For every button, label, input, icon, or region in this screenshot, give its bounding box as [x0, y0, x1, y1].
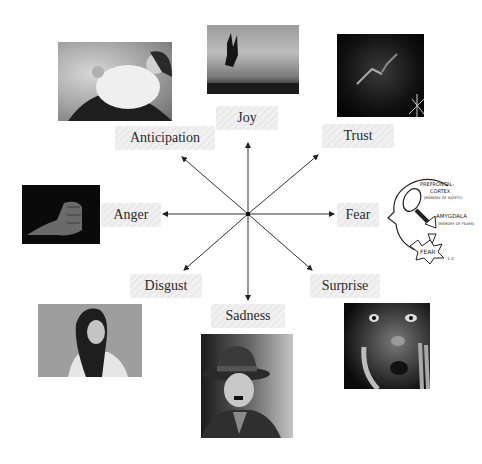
svg-text:FEAR: FEAR [420, 248, 436, 255]
svg-text:L.C: L.C [448, 256, 455, 261]
label-joy: Joy [216, 106, 278, 130]
image-surprise [344, 303, 430, 389]
brain-sketch-icon: FEAR PREFRONTAL- CORTEX (MEMORY OF SAFET… [380, 172, 482, 264]
image-disgust [38, 304, 142, 377]
svg-text:CORTEX: CORTEX [430, 188, 451, 194]
arrow-surprise [248, 214, 312, 270]
arrow-anticipation [182, 157, 248, 214]
label-trust: Trust [322, 124, 394, 148]
center-point [246, 212, 250, 216]
arrow-disgust [184, 214, 248, 270]
label-surprise: Surprise [310, 274, 380, 298]
label-anticipation: Anticipation [115, 126, 215, 150]
image-sadness [201, 334, 293, 438]
image-trust [337, 34, 424, 117]
image-anger [22, 185, 100, 244]
label-fear: Fear [337, 203, 379, 227]
label-anger: Anger [101, 203, 161, 227]
label-disgust: Disgust [130, 274, 202, 298]
svg-text:PREFRONTAL-: PREFRONTAL- [420, 181, 454, 187]
image-fear: FEAR PREFRONTAL- CORTEX (MEMORY OF SAFET… [380, 172, 482, 264]
label-sadness: Sadness [211, 304, 285, 328]
arrow-trust [248, 155, 318, 214]
image-anticipation [58, 42, 172, 121]
image-joy [207, 25, 299, 94]
svg-text:(MEMORY OF FEARS): (MEMORY OF FEARS) [438, 222, 475, 226]
svg-text:(MEMORY OF SAFETY): (MEMORY OF SAFETY) [424, 196, 463, 200]
svg-text:AMYGDALA: AMYGDALA [436, 213, 467, 219]
